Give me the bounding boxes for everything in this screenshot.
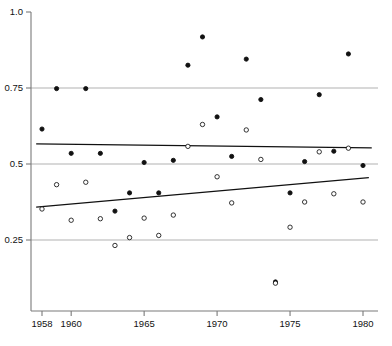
data-point-filled-circle-1959 — [54, 87, 58, 91]
scatter-chart: 0.250.50.751.0 195819601965197019751980 — [0, 0, 392, 346]
data-point-open-circle-1974 — [273, 281, 277, 285]
data-point-filled-circle-1976 — [303, 159, 307, 163]
data-point-open-circle-1962 — [98, 217, 102, 221]
data-point-filled-circle-1965 — [142, 160, 146, 164]
data-point-open-circle-1978 — [332, 192, 336, 196]
y-tick-label-0.5: 0.5 — [10, 158, 23, 169]
data-point-open-circle-1970 — [215, 175, 219, 179]
x-tick-label-1980: 1980 — [352, 318, 373, 329]
data-point-open-circle-1972 — [244, 128, 248, 132]
data-point-filled-circle-1979 — [346, 52, 350, 56]
x-axis-ticks: 195819601965197019751980 — [31, 311, 373, 329]
data-point-open-circle-1968 — [186, 144, 190, 148]
data-point-open-circle-1979 — [346, 146, 350, 150]
data-point-filled-circle-1961 — [84, 87, 88, 91]
x-tick-label-1958: 1958 — [31, 318, 52, 329]
data-point-filled-circle-1958 — [40, 127, 44, 131]
axes-group — [31, 12, 378, 311]
data-point-open-circle-1971 — [229, 201, 233, 205]
data-points-group — [40, 35, 365, 286]
data-point-filled-circle-1964 — [127, 191, 131, 195]
data-point-open-circle-1977 — [317, 150, 321, 154]
data-point-open-circle-1973 — [259, 157, 263, 161]
data-point-open-circle-1965 — [142, 216, 146, 220]
data-point-filled-circle-1973 — [259, 97, 263, 101]
y-tick-label-1.0: 1.0 — [10, 6, 23, 17]
data-point-open-circle-1963 — [113, 243, 117, 247]
x-tick-label-1965: 1965 — [134, 318, 155, 329]
data-point-open-circle-1964 — [127, 235, 131, 239]
upper-trend-line — [36, 144, 372, 148]
y-tick-label-0.75: 0.75 — [5, 82, 24, 93]
data-point-filled-circle-1978 — [332, 149, 336, 153]
data-point-filled-circle-1968 — [186, 63, 190, 67]
data-point-filled-circle-1972 — [244, 57, 248, 61]
data-point-filled-circle-1971 — [230, 154, 234, 158]
trend-lines-group — [36, 144, 372, 207]
data-point-filled-circle-1960 — [69, 151, 73, 155]
data-point-open-circle-1961 — [84, 180, 88, 184]
gridlines-group — [31, 88, 378, 240]
data-point-open-circle-1975 — [288, 225, 292, 229]
data-point-open-circle-1958 — [40, 207, 44, 211]
data-point-filled-circle-1980 — [361, 163, 365, 167]
data-point-open-circle-1976 — [302, 200, 306, 204]
plot-area: 0.250.50.751.0 195819601965197019751980 — [0, 0, 392, 346]
data-point-filled-circle-1963 — [113, 209, 117, 213]
data-point-open-circle-1960 — [69, 218, 73, 222]
x-tick-label-1960: 1960 — [61, 318, 82, 329]
y-tick-label-0.25: 0.25 — [5, 234, 24, 245]
data-point-filled-circle-1977 — [317, 93, 321, 97]
data-point-filled-circle-1966 — [157, 191, 161, 195]
data-point-filled-circle-1962 — [98, 151, 102, 155]
data-point-filled-circle-1975 — [288, 191, 292, 195]
y-axis-ticks: 0.250.50.751.0 — [5, 6, 32, 245]
data-point-filled-circle-1970 — [215, 115, 219, 119]
data-point-open-circle-1969 — [200, 122, 204, 126]
data-point-open-circle-1967 — [171, 213, 175, 217]
data-point-open-circle-1959 — [54, 182, 58, 186]
x-tick-label-1970: 1970 — [207, 318, 228, 329]
data-point-open-circle-1966 — [157, 233, 161, 237]
data-point-filled-circle-1967 — [171, 158, 175, 162]
data-point-open-circle-1980 — [361, 200, 365, 204]
x-tick-label-1975: 1975 — [279, 318, 300, 329]
data-point-filled-circle-1969 — [200, 35, 204, 39]
